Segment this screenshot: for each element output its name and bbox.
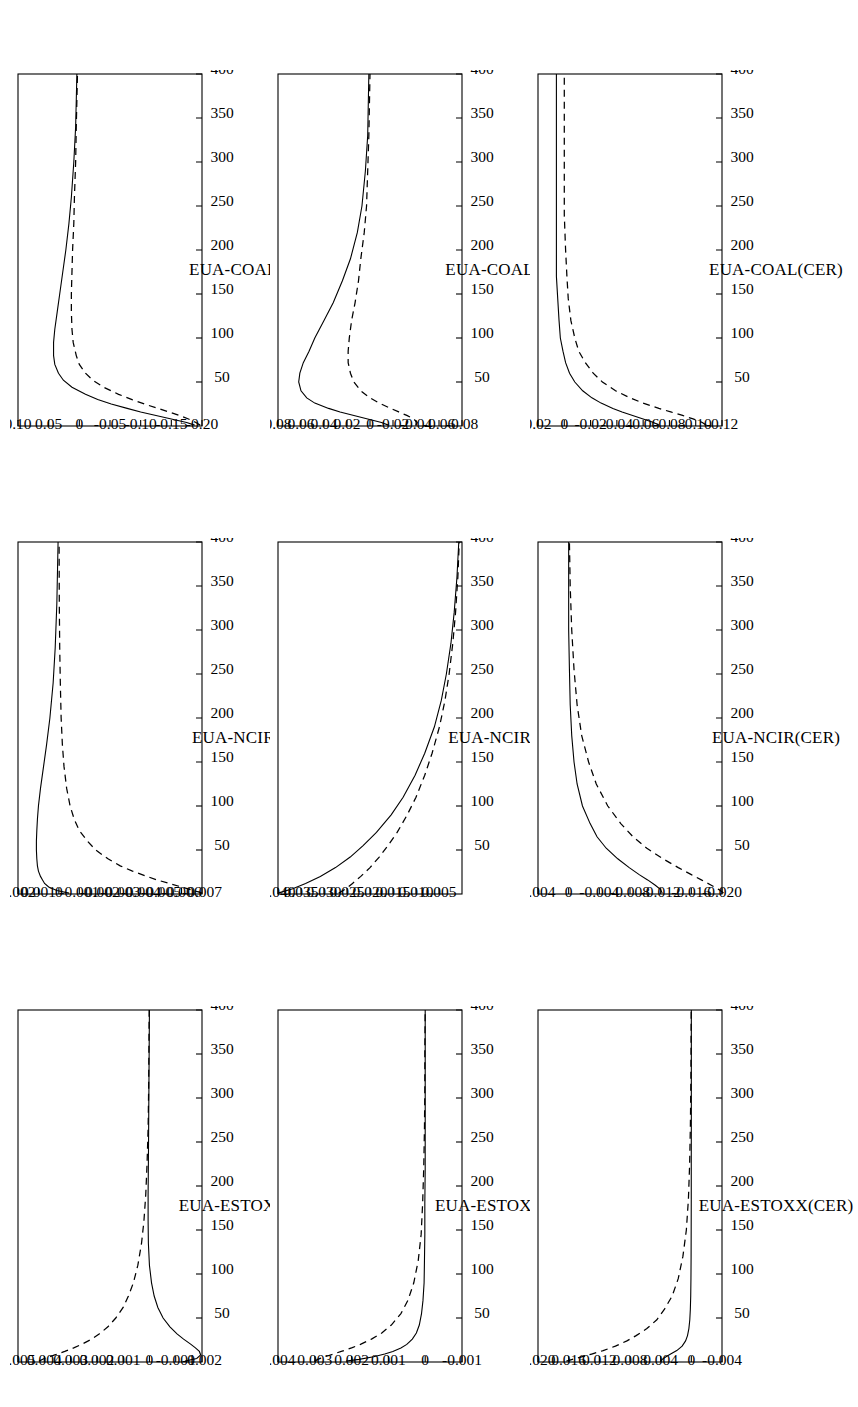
x-tick-label: 50 — [734, 1304, 750, 1321]
curve-dashed — [564, 74, 706, 425]
panel-eua-ncir-avia: 501001502002503003504000.0400.0350.0300.… — [270, 538, 520, 938]
x-tick-label: 100 — [210, 324, 234, 341]
x-tick-label: 300 — [470, 1084, 494, 1101]
curve-solid — [278, 542, 459, 893]
x-tick-label: 350 — [210, 572, 234, 589]
y-tick-label: 0.05 — [35, 415, 62, 432]
curve-dashed — [315, 1010, 425, 1361]
y-tick-label: 0.02 — [333, 415, 360, 432]
x-tick-label: 100 — [470, 324, 494, 341]
x-tick-label: 50 — [474, 368, 490, 385]
x-tick-label: 200 — [470, 236, 494, 253]
curve-dashed — [71, 74, 200, 425]
curve-solid — [569, 542, 663, 893]
panel-eua-ncir-cer: 501001502002503003504000.0040-0.004-0.00… — [530, 538, 780, 938]
x-tick-label: 50 — [474, 1304, 490, 1321]
x-tick-label: 150 — [470, 1216, 494, 1233]
y-tick-label: 0 — [146, 1351, 154, 1368]
curve-dashed — [566, 1010, 691, 1361]
x-tick-label: 350 — [210, 1040, 234, 1057]
x-tick-label: 350 — [730, 1040, 754, 1057]
x-tick-label: 50 — [734, 368, 750, 385]
y-tick-label: 0.004 — [270, 1351, 296, 1368]
x-tick-label: 200 — [730, 236, 754, 253]
x-tick-label: 400 — [210, 538, 234, 545]
curve-solid — [36, 542, 69, 893]
x-tick-label: 400 — [730, 1006, 754, 1013]
x-tick-label: 50 — [214, 368, 230, 385]
panel-eua-estoxx-cer: 501001502002503003504000.0200.0160.0120.… — [530, 1006, 780, 1406]
plot-frame — [278, 1010, 462, 1362]
x-tick-label: 350 — [730, 104, 754, 121]
y-tick-label: -0.12 — [706, 415, 738, 432]
plot-frame — [538, 1010, 722, 1362]
axis-title-eua-ncir-cer: EUA-NCIR(CER) — [576, 728, 858, 748]
x-tick-label: 150 — [210, 748, 234, 765]
x-tick-label: 150 — [730, 1216, 754, 1233]
x-tick-label: 300 — [470, 616, 494, 633]
panel-eua-estoxx-cap: 501001502002503003504000.0050.0040.0030.… — [10, 1006, 260, 1406]
x-tick-label: 50 — [474, 836, 490, 853]
x-tick-label: 400 — [470, 70, 494, 77]
x-tick-label: 200 — [210, 236, 234, 253]
plot-frame — [18, 1010, 202, 1362]
y-tick-label: 0.004 — [530, 883, 556, 900]
x-tick-label: 100 — [730, 792, 754, 809]
y-tick-label: -0.002 — [182, 1351, 222, 1368]
axis-title-eua-estoxx-cer: EUA-ESTOXX(CER) — [576, 1196, 858, 1216]
plot-frame — [278, 542, 462, 894]
curve-solid — [556, 74, 659, 425]
x-tick-label: 200 — [730, 1172, 754, 1189]
x-tick-label: 250 — [210, 660, 234, 677]
y-tick-label: 0.005 — [422, 883, 457, 900]
x-tick-label: 350 — [470, 1040, 494, 1057]
x-tick-label: 250 — [210, 192, 234, 209]
x-tick-label: 400 — [210, 1006, 234, 1013]
curve-dashed — [348, 74, 417, 425]
x-tick-label: 250 — [470, 192, 494, 209]
x-tick-label: 50 — [214, 836, 230, 853]
curve-dashed — [569, 542, 723, 893]
x-tick-label: 200 — [210, 1172, 234, 1189]
y-tick-label: 0.012 — [582, 1351, 617, 1368]
x-tick-label: 350 — [470, 572, 494, 589]
y-tick-label: -0.10 — [125, 415, 158, 432]
plot-frame — [538, 542, 722, 894]
y-tick-label: 0.10 — [10, 415, 32, 432]
plot-frame — [18, 542, 202, 894]
x-tick-label: 100 — [730, 324, 754, 341]
x-tick-label: 100 — [470, 792, 494, 809]
x-tick-label: 150 — [730, 280, 754, 297]
x-tick-label: 300 — [730, 1084, 754, 1101]
x-tick-label: 150 — [470, 748, 494, 765]
y-tick-label: 0 — [560, 415, 568, 432]
y-tick-label: 0.001 — [371, 1351, 406, 1368]
x-tick-label: 100 — [210, 1260, 234, 1277]
curve-solid — [148, 1010, 201, 1361]
x-tick-label: 150 — [210, 280, 234, 297]
y-tick-label: 0.004 — [643, 1351, 678, 1368]
y-tick-label: -0.05 — [94, 415, 127, 432]
x-tick-label: 250 — [730, 1128, 754, 1145]
x-tick-label: 100 — [210, 792, 234, 809]
x-tick-label: 350 — [730, 572, 754, 589]
x-tick-label: 400 — [730, 70, 754, 77]
curve-dashed — [59, 542, 202, 893]
x-tick-label: 300 — [210, 148, 234, 165]
x-tick-label: 100 — [730, 1260, 754, 1277]
x-tick-label: 300 — [730, 148, 754, 165]
y-tick-label: -0.001 — [442, 1351, 482, 1368]
x-tick-label: 250 — [730, 192, 754, 209]
x-tick-label: 50 — [214, 1304, 230, 1321]
y-tick-label: 0 — [421, 1351, 429, 1368]
x-tick-label: 400 — [470, 538, 494, 545]
curve-dashed — [39, 1010, 149, 1361]
x-tick-label: 300 — [210, 1084, 234, 1101]
y-tick-label: 0.001 — [21, 883, 56, 900]
x-tick-label: 150 — [730, 748, 754, 765]
axis-title-eua-coal-cer: EUA-COAL(CER) — [576, 260, 858, 280]
x-tick-label: 350 — [210, 104, 234, 121]
curve-dashed — [339, 542, 460, 893]
y-tick-label: 0.003 — [297, 1351, 332, 1368]
y-tick-label: 0.001 — [106, 1351, 141, 1368]
